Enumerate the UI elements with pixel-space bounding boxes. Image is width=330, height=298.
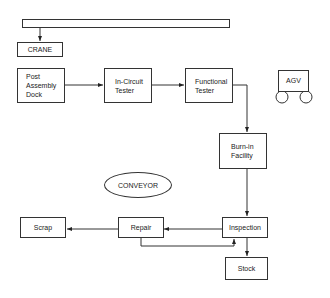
inspection-label: Inspection xyxy=(229,223,261,232)
in-circuit-tester-line2: Tester xyxy=(115,86,151,95)
node-functional-tester: Functional Tester xyxy=(185,68,233,103)
node-stock: Stock xyxy=(225,257,268,280)
stock-label: Stock xyxy=(238,264,256,273)
burn-in-facility-line1: Burn-in xyxy=(231,142,266,151)
post-assembly-dock-line3: Dock xyxy=(26,90,64,99)
node-post-assembly-dock: Post Assembly Dock xyxy=(17,68,65,103)
agv-wheel-right xyxy=(300,91,312,103)
scrap-label: Scrap xyxy=(34,223,52,232)
agv-wheel-left xyxy=(276,91,288,103)
functional-tester-line2: Tester xyxy=(195,86,232,95)
burn-in-facility-line2: Facility xyxy=(231,151,266,160)
diagram-canvas: CRANE Post Assembly Dock In-Circuit Test… xyxy=(0,0,330,298)
node-in-circuit-tester: In-Circuit Tester xyxy=(104,68,152,103)
conveyor-label: CONVEYOR xyxy=(118,182,158,189)
node-crane: CRANE xyxy=(17,42,63,57)
node-repair: Repair xyxy=(118,217,164,238)
crane-label: CRANE xyxy=(28,45,53,54)
in-circuit-tester-line1: In-Circuit xyxy=(115,77,151,86)
node-inspection: Inspection xyxy=(222,217,268,238)
crane-rail xyxy=(23,20,230,28)
repair-label: Repair xyxy=(131,223,152,232)
node-burn-in-facility: Burn-in Facility xyxy=(219,133,267,169)
node-conveyor: CONVEYOR xyxy=(104,172,172,198)
agv-label: AGV xyxy=(286,76,301,85)
post-assembly-dock-line2: Assembly xyxy=(26,81,64,90)
node-agv: AGV xyxy=(278,70,309,92)
functional-tester-line1: Functional xyxy=(195,77,232,86)
post-assembly-dock-line1: Post xyxy=(26,72,64,81)
node-scrap: Scrap xyxy=(20,217,66,238)
